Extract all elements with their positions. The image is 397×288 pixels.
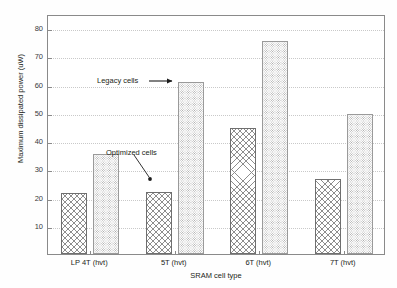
gridline — [48, 58, 384, 59]
bar-optimized — [146, 192, 172, 254]
y-tick-mark — [48, 87, 52, 88]
gridline — [48, 115, 384, 116]
plot-area — [48, 16, 384, 254]
x-tick-mark — [90, 251, 91, 255]
bar-legacy — [347, 114, 373, 254]
y-tick-label: 70 — [17, 53, 43, 61]
y-axis-title: Maximum dissipated power (uW) — [16, 9, 25, 209]
bar-legacy — [178, 82, 204, 254]
bar-optimized — [315, 179, 341, 254]
y-tick-mark — [48, 228, 52, 229]
y-tick-label: 20 — [17, 195, 43, 203]
plot-frame — [47, 15, 385, 255]
y-tick-label: 60 — [17, 82, 43, 90]
bar-legacy — [262, 41, 288, 254]
y-tick-label: 40 — [17, 138, 43, 146]
y-tick-mark — [48, 58, 52, 59]
y-tick-label: 80 — [17, 25, 43, 33]
gridline — [48, 87, 384, 88]
x-axis-title: SRAM cell type — [47, 271, 385, 280]
x-tick-mark — [259, 251, 260, 255]
y-tick-label: 30 — [17, 166, 43, 174]
y-tick-label: 10 — [17, 223, 43, 231]
y-tick-mark — [48, 30, 52, 31]
x-tick-label: 7T (hvt) — [298, 258, 388, 267]
gridline — [48, 30, 384, 31]
x-tick-label: 5T (hvt) — [129, 258, 219, 267]
x-tick-mark — [175, 251, 176, 255]
gridline — [48, 143, 384, 144]
x-tick-label: LP 4T (hvt) — [44, 258, 134, 267]
annotation-legacy-cells: Legacy cells — [97, 76, 138, 85]
chart-figure: Maximum dissipated power (uW) Legacy cel… — [0, 0, 397, 288]
y-tick-mark — [48, 115, 52, 116]
bar-optimized — [61, 193, 87, 254]
y-tick-mark — [48, 200, 52, 201]
y-tick-label: 50 — [17, 110, 43, 118]
y-tick-mark — [48, 171, 52, 172]
bar-legacy — [93, 154, 119, 254]
annotation-optimized-cells: Optimized cells — [106, 148, 157, 157]
y-tick-mark — [48, 143, 52, 144]
x-tick-mark — [344, 251, 345, 255]
bar-optimized — [230, 128, 256, 254]
x-tick-label: 6T (hvt) — [213, 258, 303, 267]
